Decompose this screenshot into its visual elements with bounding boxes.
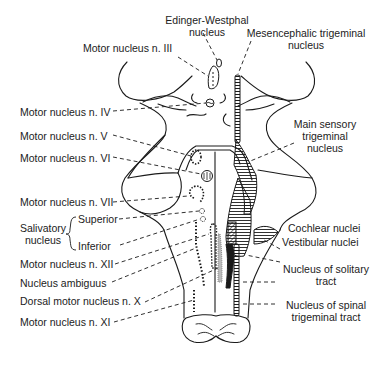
label-nucleus-spinal-trigeminal: Nucleus of spinal trigeminal tract (276, 299, 376, 323)
dorsal-motor-nucleus-x (218, 234, 222, 282)
label-edinger-line1: Edinger-Westphal (147, 14, 267, 26)
salivatory-inferior (201, 217, 206, 222)
mesencephalic-trigeminal-nucleus (235, 75, 240, 143)
nucleus-ambiguus (196, 222, 204, 286)
edinger-westphal-nucleus (217, 59, 222, 67)
label-vestibular-nuclei: Vestibular nuclei (282, 236, 358, 248)
label-main-sensory-line1: Main sensory (285, 118, 365, 130)
label-mesencephalic-line2: nucleus (236, 39, 376, 51)
salivatory-superior (200, 209, 205, 214)
label-salivatory-inferior: Inferior (78, 240, 111, 252)
label-spinal-trig-line2: trigeminal tract (276, 311, 376, 323)
label-solitary-line2: tract (276, 275, 376, 287)
right-peduncle-outline (241, 62, 315, 100)
label-main-sensory-line2: trigeminal (285, 130, 365, 142)
label-motor-vii: Motor nucleus n. VII (20, 196, 113, 208)
motor-nucleus-xii (210, 224, 216, 268)
label-main-sensory-line3: nucleus (285, 142, 365, 154)
label-salivatory-nucleus: Salivatory nucleus (18, 222, 68, 246)
label-salivatory-line2: nucleus (18, 234, 68, 246)
label-spinal-trig-line1: Nucleus of spinal (276, 299, 376, 311)
label-mesencephalic-line1: Mesencephalic trigeminal (236, 27, 376, 39)
left-pons-outline (122, 103, 167, 230)
motor-nucleus-v (191, 150, 201, 164)
label-motor-iv: Motor nucleus n. IV (20, 106, 110, 118)
label-motor-xi: Motor nucleus n. XI (20, 316, 110, 328)
label-solitary-line1: Nucleus of solitary (276, 263, 376, 275)
label-motor-iii: Motor nucleus n. III (83, 42, 172, 54)
label-nucleus-solitary-tract: Nucleus of solitary tract (276, 263, 376, 287)
label-motor-vi: Motor nucleus n. VI (20, 152, 110, 164)
spinal-cord-section (182, 315, 250, 343)
label-dorsal-motor-x: Dorsal motor nucleus n. X (20, 295, 141, 307)
label-nucleus-ambiguus: Nucleus ambiguus (20, 277, 106, 289)
label-motor-xii: Motor nucleus n. XII (20, 258, 113, 270)
label-salivatory-line1: Salivatory (18, 222, 68, 234)
solitary-nucleus-dark (228, 222, 236, 244)
label-salivatory-superior: Superior (78, 213, 118, 225)
motor-nucleus-vii (190, 186, 204, 202)
nucleus-of-spinal-trigeminal-tract (234, 244, 239, 316)
medulla-left-outline (164, 230, 184, 318)
left-peduncle-outline (119, 62, 192, 100)
label-cochlear-nuclei: Cochlear nuclei (288, 222, 360, 234)
nucleus-of-solitary-tract (226, 244, 234, 288)
label-main-sensory-trigeminal: Main sensory trigeminal nucleus (285, 118, 365, 154)
label-motor-v: Motor nucleus n. V (20, 130, 108, 142)
label-mesencephalic-trigeminal: Mesencephalic trigeminal nucleus (236, 27, 376, 51)
